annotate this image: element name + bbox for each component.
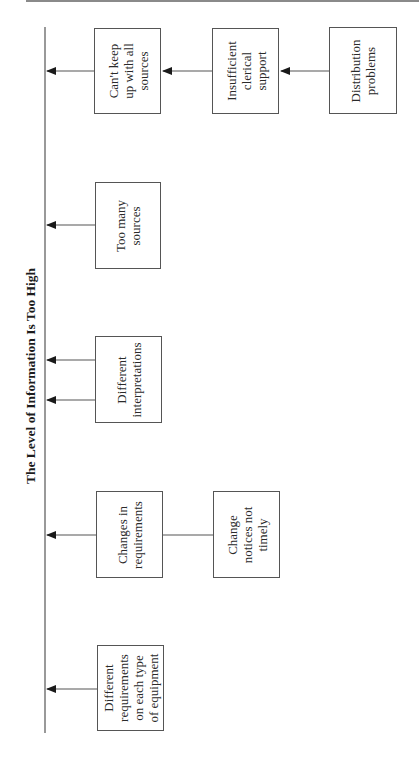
cause-box-different-requirements: Different requirements on each type of e… [97, 645, 164, 731]
cause-box-cant-keep-up: Can't keep up with all sources [94, 28, 161, 114]
cause-box-changes-in-requirements: Changes in requirements [96, 491, 163, 578]
cause-box-insufficient-clerical: Insufficient clerical support [212, 28, 279, 114]
connector-lines [0, 0, 419, 767]
cause-box-different-interpretations: Different interpretations [95, 336, 162, 423]
cause-label: Change notices not timely [224, 493, 269, 577]
cause-box-too-many-sources: Too many sources [95, 182, 161, 269]
cause-box-distribution-problems: Distribution problems [329, 27, 397, 114]
diagram-title: The Level of Information Is Too High [23, 268, 39, 484]
cause-box-change-notices: Change notices not timely [213, 491, 280, 578]
cause-label: Different interpretations [114, 330, 144, 430]
cause-label: Distribution problems [348, 29, 378, 113]
cause-label: Can't keep up with all sources [105, 29, 150, 113]
cause-label: Insufficient clerical support [223, 29, 268, 113]
cause-label: Changes in requirements [115, 493, 145, 577]
cause-label: Too many sources [113, 184, 143, 268]
cause-label: Different requirements on each type of e… [101, 646, 161, 730]
